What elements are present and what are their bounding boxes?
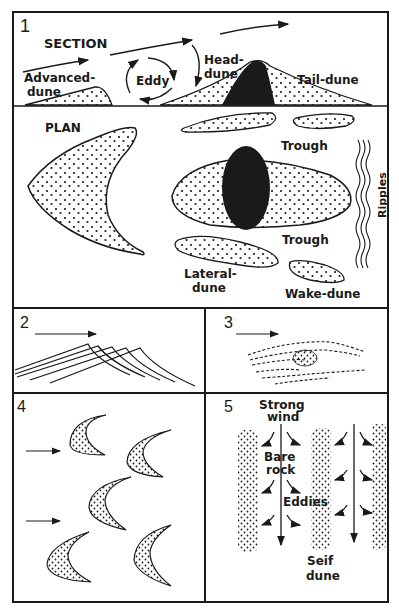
- barchan-2: [127, 430, 171, 477]
- barchan-1: [70, 415, 106, 455]
- ripples-label: Ripples: [376, 172, 389, 218]
- lateral-ridge-top-left: [181, 113, 275, 132]
- wake-dune-shape: [289, 261, 344, 283]
- lateral-ridge-top-right: [293, 114, 354, 129]
- barchan-5: [134, 525, 171, 586]
- seif-dune-ridges: [238, 424, 386, 552]
- wake-dune-label: Wake-dune: [285, 287, 361, 301]
- head-dune-plan-shape: [222, 146, 270, 230]
- panel-4: 4: [17, 398, 171, 586]
- eddies-label: Eddies: [283, 495, 328, 509]
- panel-number-2: 2: [20, 314, 29, 331]
- plan-title: PLAN: [45, 121, 81, 135]
- panel-number-5: 5: [224, 398, 233, 415]
- bare-rock-label-1: Bare: [264, 450, 295, 464]
- seif-dune-label-1: Seif: [307, 554, 334, 568]
- lateral-dune-shape: [175, 236, 278, 267]
- panel-1-plan: PLAN Trough Trough Lateral- dune Wake-du…: [28, 113, 389, 301]
- seif-ridge-1: [238, 430, 258, 552]
- ripples-icon: [356, 140, 370, 268]
- head-dune-label-1: Head-: [204, 53, 244, 67]
- barchan-3: [89, 477, 131, 530]
- barchan-dunes: [47, 415, 171, 586]
- tail-dune-label: Tail-dune: [297, 73, 359, 87]
- seif-ridge-3: [372, 424, 386, 550]
- section-title: SECTION: [44, 36, 107, 51]
- panel-number-3: 3: [224, 314, 233, 331]
- lateral-dune-label-2: dune: [192, 281, 226, 295]
- panel-1-section: 1 SECTION Eddy Advanced- dune Head- dune…: [20, 16, 372, 105]
- eddy-label: Eddy: [136, 74, 169, 88]
- trough-bottom-label: Trough: [282, 233, 329, 247]
- strong-wind-label-2: wind: [267, 410, 299, 424]
- panel-number-4: 4: [17, 398, 26, 415]
- panel-5: 5 Strong wind Bare rock Eddies Seif: [224, 398, 386, 583]
- head-dune-label-2: dune: [204, 67, 238, 81]
- lateral-dune-label-1: Lateral-: [184, 267, 237, 281]
- dune-diagram: 1 SECTION Eddy Advanced- dune Head- dune…: [0, 0, 399, 612]
- bare-rock-label-2: rock: [266, 463, 296, 477]
- foreset-core: [293, 350, 317, 366]
- panel-2: 2: [15, 314, 195, 386]
- barchan-4: [47, 532, 91, 582]
- panel-3: 3: [224, 314, 365, 384]
- advanced-dune-label-2: dune: [27, 85, 61, 99]
- dune-migration-lines: [15, 344, 195, 386]
- advanced-dune-label-1: Advanced-: [24, 71, 95, 85]
- barchan-plan-shape: [28, 127, 144, 254]
- seif-dune-label-2: dune: [306, 569, 340, 583]
- trough-top-label: Trough: [281, 139, 328, 153]
- panel-number-1: 1: [20, 16, 30, 36]
- eddy-arrows: [126, 45, 199, 100]
- seif-ridge-2: [311, 428, 331, 550]
